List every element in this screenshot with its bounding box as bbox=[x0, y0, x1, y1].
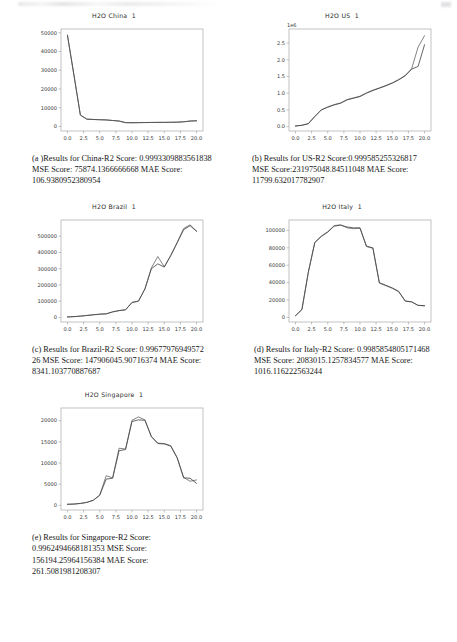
y-tick-label: 20000 bbox=[269, 296, 285, 302]
x-tick-label: 15.0 bbox=[387, 325, 398, 331]
caption-brazil: (c) Results for Brazil-R2 Score: 0.99677… bbox=[32, 344, 208, 378]
x-tick-label: 0.0 bbox=[63, 325, 71, 331]
x-tick-label: 10.0 bbox=[354, 135, 365, 141]
plot-frame bbox=[289, 29, 431, 131]
figure-grid: H2O China 1 010000200003000040000500000.… bbox=[0, 12, 457, 577]
y-tick-label: 100000 bbox=[38, 298, 57, 304]
x-tick-label: 0.0 bbox=[63, 135, 71, 141]
x-tick-label: 17.5 bbox=[403, 135, 414, 141]
x-tick-label: 10.0 bbox=[354, 325, 365, 331]
x-tick-label: 2.5 bbox=[80, 325, 88, 331]
x-tick-label: 20.0 bbox=[191, 325, 202, 331]
y-tick-label: 50000 bbox=[41, 30, 57, 36]
y-axis-offset-label: 1e6 bbox=[287, 22, 297, 28]
figure-row-1: H2O China 1 010000200003000040000500000.… bbox=[0, 12, 457, 187]
y-tick-label: 100000 bbox=[266, 227, 285, 233]
scan-artifact-top-right bbox=[441, 2, 451, 7]
series-line-actual bbox=[67, 225, 196, 316]
figure-panel-brazil: H2O Brazil 1 010000020000030000040000050… bbox=[0, 203, 228, 378]
x-tick-label: 5.0 bbox=[324, 135, 332, 141]
y-tick-label: 5000 bbox=[44, 481, 57, 487]
series-line-predicted bbox=[295, 36, 424, 126]
x-tick-label: 20.0 bbox=[419, 325, 430, 331]
y-tick-label: 10000 bbox=[41, 105, 57, 111]
series-line-actual bbox=[67, 35, 196, 123]
y-tick-label: 10000 bbox=[41, 460, 57, 466]
x-tick-label: 0.0 bbox=[291, 135, 299, 141]
x-tick-label: 15.0 bbox=[387, 135, 398, 141]
chart-brazil: 01000002000003000004000005000000.02.55.0… bbox=[19, 212, 209, 340]
chart-us: 1e60.00.51.01.52.02.50.02.55.07.510.012.… bbox=[247, 21, 437, 149]
x-tick-label: 20.0 bbox=[191, 514, 202, 520]
figure-row-2: H2O Brazil 1 010000020000030000040000050… bbox=[0, 203, 457, 378]
chart-title-china: H2O China 1 bbox=[92, 12, 136, 19]
plot-frame bbox=[289, 220, 431, 322]
x-tick-label: 12.5 bbox=[142, 514, 153, 520]
y-tick-label: 0 bbox=[54, 502, 57, 508]
x-tick-label: 2.5 bbox=[80, 514, 88, 520]
figure-panel-china: H2O China 1 010000200003000040000500000.… bbox=[0, 12, 228, 187]
chart-italy: 0200004000060000800001000000.02.55.07.51… bbox=[247, 212, 437, 340]
figure-panel-singapore: H2O Singapore 1 050001000015000200000.02… bbox=[0, 391, 228, 577]
figure-row-3: H2O Singapore 1 050001000015000200000.02… bbox=[0, 391, 457, 577]
x-tick-label: 7.5 bbox=[340, 135, 348, 141]
figure-panel-italy: H2O Italy 1 0200004000060000800001000000… bbox=[228, 203, 456, 378]
caption-china: (a )Results for China-R2 Score: 0.999330… bbox=[32, 153, 214, 187]
y-tick-label: 1.5 bbox=[277, 73, 285, 79]
y-tick-label: 300000 bbox=[38, 265, 57, 271]
plot-frame bbox=[61, 29, 203, 131]
y-tick-label: 2.0 bbox=[277, 57, 285, 63]
x-tick-label: 2.5 bbox=[308, 325, 316, 331]
x-tick-label: 7.5 bbox=[112, 135, 120, 141]
x-tick-label: 5.0 bbox=[96, 325, 104, 331]
chart-title-us: H2O US 1 bbox=[325, 12, 359, 19]
series-line-actual bbox=[295, 45, 424, 126]
series-line-predicted bbox=[295, 224, 424, 315]
y-tick-label: 15000 bbox=[41, 439, 57, 445]
series-line-actual bbox=[67, 420, 196, 504]
figure-panel-us: H2O US 1 1e60.00.51.01.52.02.50.02.55.07… bbox=[228, 12, 456, 187]
x-tick-label: 12.5 bbox=[370, 325, 381, 331]
x-tick-label: 20.0 bbox=[419, 135, 430, 141]
x-tick-label: 2.5 bbox=[308, 135, 316, 141]
scan-artifact-top-left bbox=[18, 2, 218, 6]
chart-svg-brazil: 01000002000003000004000005000000.02.55.0… bbox=[19, 212, 209, 340]
chart-svg-italy: 0200004000060000800001000000.02.55.07.51… bbox=[247, 212, 437, 340]
y-tick-label: 200000 bbox=[38, 281, 57, 287]
chart-svg-us: 1e60.00.51.01.52.02.50.02.55.07.510.012.… bbox=[247, 21, 437, 149]
x-tick-label: 7.5 bbox=[112, 514, 120, 520]
x-tick-label: 17.5 bbox=[175, 135, 186, 141]
x-tick-label: 10.0 bbox=[126, 135, 137, 141]
y-tick-label: 400000 bbox=[38, 249, 57, 255]
y-tick-label: 20000 bbox=[41, 418, 57, 424]
caption-us: (b) Results for US-R2 Score:0.9995852553… bbox=[252, 153, 434, 187]
x-tick-label: 7.5 bbox=[340, 325, 348, 331]
x-tick-label: 12.5 bbox=[370, 135, 381, 141]
x-tick-label: 7.5 bbox=[112, 325, 120, 331]
x-tick-label: 5.0 bbox=[324, 325, 332, 331]
chart-singapore: 050001000015000200000.02.55.07.510.012.5… bbox=[19, 400, 209, 528]
chart-svg-singapore: 050001000015000200000.02.55.07.510.012.5… bbox=[19, 400, 209, 528]
x-tick-label: 20.0 bbox=[191, 135, 202, 141]
plot-frame bbox=[61, 220, 203, 322]
y-tick-label: 0.0 bbox=[277, 123, 285, 129]
chart-title-singapore: H2O Singapore 1 bbox=[85, 391, 144, 398]
y-tick-label: 500000 bbox=[38, 233, 57, 239]
x-tick-label: 12.5 bbox=[142, 135, 153, 141]
x-tick-label: 5.0 bbox=[96, 135, 104, 141]
y-tick-label: 30000 bbox=[41, 67, 57, 73]
caption-italy: (d) Results for Italy-R2 Score: 0.998585… bbox=[254, 344, 430, 378]
x-tick-label: 15.0 bbox=[159, 514, 170, 520]
caption-singapore: (e) Results for Singapore-R2 Score: 0.99… bbox=[32, 532, 208, 577]
x-tick-label: 12.5 bbox=[142, 325, 153, 331]
x-tick-label: 0.0 bbox=[63, 514, 71, 520]
x-tick-label: 17.5 bbox=[175, 325, 186, 331]
x-tick-label: 15.0 bbox=[159, 135, 170, 141]
series-line-predicted bbox=[67, 35, 196, 123]
x-tick-label: 2.5 bbox=[80, 135, 88, 141]
x-tick-label: 17.5 bbox=[403, 325, 414, 331]
x-tick-label: 15.0 bbox=[159, 325, 170, 331]
series-line-predicted bbox=[67, 417, 196, 504]
chart-china: 010000200003000040000500000.02.55.07.510… bbox=[19, 21, 209, 149]
y-tick-label: 80000 bbox=[269, 244, 285, 250]
